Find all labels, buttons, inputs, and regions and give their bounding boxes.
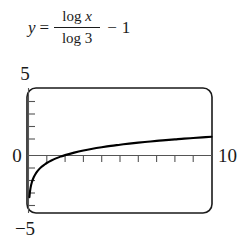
plot-area: 5 0 −5 10 bbox=[0, 60, 241, 251]
equation-fraction: log x log 3 bbox=[54, 8, 100, 47]
x-axis-ticks bbox=[47, 156, 193, 163]
log-curve bbox=[29, 137, 211, 197]
y-axis-min-label: −5 bbox=[15, 218, 35, 239]
plot-frame bbox=[27, 88, 212, 213]
equation-expression: y = log x log 3 − 1 bbox=[28, 8, 130, 47]
equation-constant: 1 bbox=[122, 19, 131, 36]
fraction-denominator: log 3 bbox=[59, 30, 95, 47]
y-axis-zero-label: 0 bbox=[12, 145, 22, 166]
fraction-bar bbox=[54, 27, 100, 28]
equation-equals-sign: = bbox=[40, 19, 55, 36]
graph-svg: 5 0 −5 10 bbox=[0, 60, 241, 251]
y-axis-max-label: 5 bbox=[20, 63, 30, 84]
x-axis-max-label: 10 bbox=[218, 145, 237, 166]
axes-group bbox=[27, 88, 212, 213]
figure-container: y = log x log 3 − 1 5 0 −5 10 bbox=[0, 0, 241, 251]
fraction-numerator: log x bbox=[59, 8, 95, 25]
equation-lhs-variable: y bbox=[28, 19, 40, 36]
equation-minus-operator: − bbox=[100, 19, 122, 36]
